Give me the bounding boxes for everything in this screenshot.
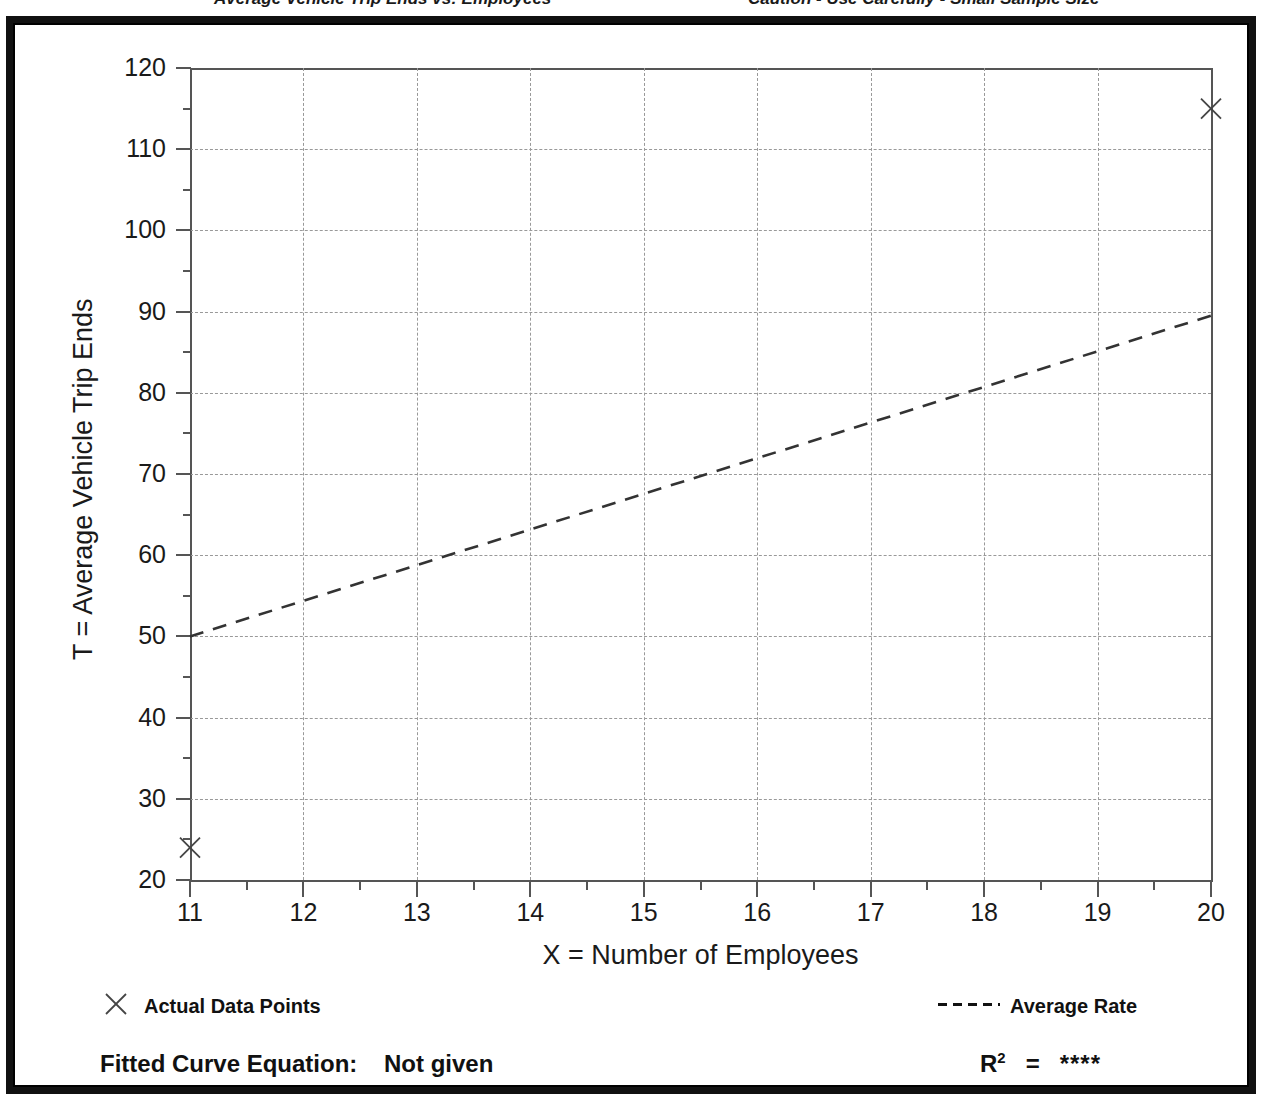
y-tick-label: 80	[138, 380, 166, 405]
header-right-caution-text: Caution - Use Carefully - Small Sample S…	[748, 0, 1099, 9]
gridline-horizontal	[190, 636, 1211, 637]
fitted-curve-equation: Fitted Curve Equation: Not given	[100, 1050, 493, 1078]
x-tick-minor	[700, 881, 702, 890]
page-header-strip: Average Vehicle Trip Ends vs: Employees …	[0, 0, 1268, 14]
y-tick-major	[176, 635, 191, 637]
plot-frame-top	[190, 68, 1213, 70]
x-tick-minor	[246, 881, 248, 890]
gridline-vertical	[417, 68, 418, 880]
x-tick-major	[1210, 881, 1212, 897]
x-tick-major	[983, 881, 985, 897]
x-axis-line	[190, 880, 1213, 882]
x-tick-label: 17	[831, 900, 911, 925]
x-tick-minor	[813, 881, 815, 890]
x-tick-label: 16	[717, 900, 797, 925]
gridline-horizontal	[190, 312, 1211, 313]
y-axis-title: T = Average Vehicle Trip Ends	[68, 299, 99, 660]
x-tick-label: 11	[150, 900, 230, 925]
y-tick-minor	[183, 432, 191, 434]
x-tick-minor	[586, 881, 588, 890]
y-tick-minor	[183, 351, 191, 353]
x-tick-label: 13	[377, 900, 457, 925]
r-squared-equals: =	[1026, 1050, 1040, 1077]
x-tick-minor	[473, 881, 475, 890]
x-tick-label: 15	[604, 900, 684, 925]
x-tick-major	[529, 881, 531, 897]
y-tick-major	[176, 392, 191, 394]
gridline-vertical	[984, 68, 985, 880]
r-squared-label: R	[980, 1050, 997, 1077]
legend-actual-data-points-label: Actual Data Points	[144, 995, 321, 1018]
fitted-curve-equation-value: Not given	[384, 1050, 493, 1077]
chart-figure: Average Vehicle Trip Ends vs: Employees …	[0, 0, 1268, 1101]
x-marker-icon	[103, 991, 129, 1017]
x-tick-label: 18	[944, 900, 1024, 925]
x-tick-minor	[1040, 881, 1042, 890]
y-tick-major	[176, 554, 191, 556]
gridline-horizontal	[190, 718, 1211, 719]
y-tick-label: 90	[138, 299, 166, 324]
x-tick-minor	[1153, 881, 1155, 890]
x-tick-major	[189, 881, 191, 897]
y-tick-minor	[183, 108, 191, 110]
gridline-horizontal	[190, 799, 1211, 800]
fitted-curve-equation-label: Fitted Curve Equation:	[100, 1050, 357, 1077]
header-left-text: Average Vehicle Trip Ends vs: Employees	[214, 0, 551, 9]
y-tick-minor	[183, 757, 191, 759]
r-squared-readout: R2 = ****	[980, 1050, 1101, 1078]
y-tick-minor	[183, 595, 191, 597]
gridline-vertical	[1098, 68, 1099, 880]
y-tick-major	[176, 229, 191, 231]
y-tick-major	[176, 717, 191, 719]
r-squared-exponent: 2	[997, 1050, 1005, 1066]
y-tick-major	[176, 67, 191, 69]
gridline-horizontal	[190, 555, 1211, 556]
gridline-vertical	[530, 68, 531, 880]
y-tick-major	[176, 473, 191, 475]
x-tick-major	[302, 881, 304, 897]
y-tick-label: 30	[138, 786, 166, 811]
y-tick-label: 20	[138, 867, 166, 892]
gridline-vertical	[757, 68, 758, 880]
x-axis-title: X = Number of Employees	[190, 940, 1211, 971]
y-tick-label: 120	[124, 55, 166, 80]
x-tick-label: 20	[1171, 900, 1251, 925]
y-tick-major	[176, 798, 191, 800]
x-tick-major	[756, 881, 758, 897]
y-tick-label: 40	[138, 705, 166, 730]
y-tick-label: 70	[138, 461, 166, 486]
gridline-vertical	[303, 68, 304, 880]
y-tick-minor	[183, 189, 191, 191]
y-tick-label: 60	[138, 542, 166, 567]
y-tick-major	[176, 148, 191, 150]
y-tick-label: 110	[126, 136, 166, 161]
x-tick-minor	[359, 881, 361, 890]
y-tick-minor	[183, 676, 191, 678]
x-tick-major	[416, 881, 418, 897]
x-tick-major	[643, 881, 645, 897]
x-tick-label: 19	[1058, 900, 1138, 925]
legend-average-rate-label: Average Rate	[1010, 995, 1137, 1018]
gridline-horizontal	[190, 393, 1211, 394]
x-tick-major	[870, 881, 872, 897]
r-squared-value: ****	[1060, 1050, 1101, 1077]
gridline-vertical	[644, 68, 645, 880]
gridline-horizontal	[190, 230, 1211, 231]
gridline-vertical	[871, 68, 872, 880]
plot-frame-right	[1211, 68, 1213, 882]
y-tick-label: 50	[138, 623, 166, 648]
y-tick-label: 100	[124, 217, 166, 242]
x-tick-minor	[926, 881, 928, 890]
dashed-line-icon	[938, 1003, 1000, 1006]
gridline-horizontal	[190, 149, 1211, 150]
x-tick-label: 12	[263, 900, 343, 925]
gridline-horizontal	[190, 474, 1211, 475]
y-tick-major	[176, 311, 191, 313]
y-tick-minor	[183, 514, 191, 516]
x-tick-label: 14	[490, 900, 570, 925]
y-tick-minor	[183, 270, 191, 272]
x-tick-major	[1097, 881, 1099, 897]
y-tick-minor	[183, 838, 191, 840]
